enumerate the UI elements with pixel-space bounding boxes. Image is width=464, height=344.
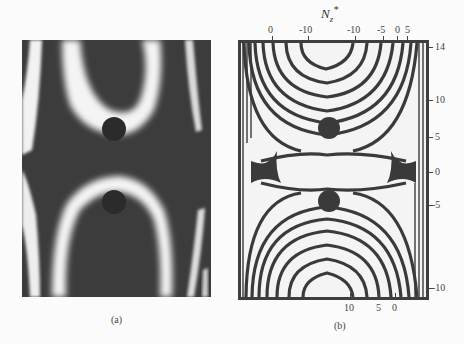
right-tick-label: 0: [435, 166, 440, 177]
top-tick-label: -5: [377, 24, 385, 35]
top-tick-label: 5: [405, 24, 410, 35]
top-tick-label: 0: [268, 24, 273, 35]
panel-b-fringe-graphic: [241, 43, 426, 297]
right-tick-label: 5: [435, 131, 440, 142]
top-tick-label: -10: [299, 24, 312, 35]
panel-a-image: [22, 40, 211, 297]
hole-top: [318, 117, 340, 139]
top-tick-label: 0: [395, 24, 400, 35]
right-tick-label: -10: [432, 282, 445, 293]
right-tick-label: 14: [435, 41, 445, 52]
hole-bottom: [318, 190, 340, 212]
hole-bottom: [102, 190, 126, 214]
right-tick-label: 10: [435, 94, 445, 105]
tick: [395, 293, 396, 299]
panel-a-fringe-graphic: [22, 40, 211, 297]
bottom-tick-label: 0: [392, 302, 397, 313]
tick: [350, 293, 351, 299]
panel-b-caption: (b): [334, 320, 346, 331]
panel-b-fringe-plot: [238, 40, 429, 300]
right-tick-label: -5: [432, 199, 440, 210]
panel-a-caption: (a): [111, 314, 122, 325]
panel-b-axis-title: Nz*: [321, 4, 338, 24]
hole-top: [102, 117, 126, 141]
bottom-tick-label: 10: [344, 302, 354, 313]
bottom-tick-label: 5: [376, 302, 381, 313]
tick: [379, 293, 380, 299]
top-tick-label: -10: [347, 24, 360, 35]
